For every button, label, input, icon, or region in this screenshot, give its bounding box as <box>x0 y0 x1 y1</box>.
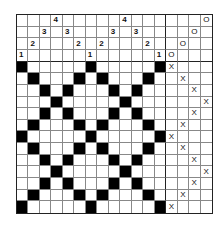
drawdown-cell <box>63 178 74 190</box>
tieup-cell: O <box>166 50 177 62</box>
treadling-cell <box>201 131 212 143</box>
drawdown-cell <box>97 85 108 97</box>
drawdown-cell <box>28 62 39 74</box>
threading-cell: 2 <box>143 38 154 50</box>
threading-cell <box>17 15 28 27</box>
drawdown-cell <box>63 62 74 74</box>
drawdown-cell <box>17 178 28 190</box>
threading-cell <box>63 50 74 62</box>
drawdown-cell <box>109 166 120 178</box>
tieup-cell <box>201 50 212 62</box>
threading-cell <box>51 38 62 50</box>
drawdown-cell <box>40 178 51 190</box>
drawdown-cell <box>28 108 39 120</box>
threading-cell <box>17 38 28 50</box>
drawdown-cell <box>74 108 85 120</box>
tieup-cell: O <box>189 27 200 39</box>
drawdown-cell <box>109 201 120 213</box>
drawdown-cell <box>28 85 39 97</box>
drawdown-cell <box>40 108 51 120</box>
drawdown-cell <box>109 143 120 155</box>
threading-cell: 2 <box>28 38 39 50</box>
drawdown-cell <box>17 108 28 120</box>
drawdown-cell <box>17 62 28 74</box>
drawdown-cell <box>120 166 131 178</box>
drawdown-cell <box>120 97 131 109</box>
treadling-cell <box>189 62 200 74</box>
drawdown-cell <box>51 62 62 74</box>
treadling-cell <box>189 166 200 178</box>
drawdown-cell <box>143 108 154 120</box>
treadling-cell <box>178 201 189 213</box>
threading-cell: 4 <box>120 15 131 27</box>
drawdown-cell <box>74 120 85 132</box>
threading-cell <box>74 27 85 39</box>
threading-cell <box>143 15 154 27</box>
drawdown-cell <box>143 201 154 213</box>
drawdown-cell <box>40 97 51 109</box>
treadling-cell <box>178 97 189 109</box>
treadling-cell <box>201 201 212 213</box>
drawdown-cell <box>17 85 28 97</box>
threading-cell <box>86 38 97 50</box>
treadling-cell <box>166 120 177 132</box>
drawdown-cell <box>51 143 62 155</box>
threading-cell <box>74 15 85 27</box>
drawdown-cell <box>74 85 85 97</box>
drawdown-cell <box>132 155 143 167</box>
drawdown-cell <box>120 155 131 167</box>
drawdown-cell <box>74 155 85 167</box>
threading-cell <box>132 38 143 50</box>
drawdown-cell <box>97 108 108 120</box>
tieup-cell <box>189 38 200 50</box>
threading-cell <box>51 27 62 39</box>
drawdown-cell <box>120 143 131 155</box>
drawdown-cell <box>155 178 166 190</box>
drawdown-cell <box>143 190 154 202</box>
drawdown-cell <box>63 120 74 132</box>
threading-cell: 3 <box>132 27 143 39</box>
drawdown-cell <box>51 120 62 132</box>
treadling-cell <box>178 108 189 120</box>
threading-cell <box>74 50 85 62</box>
drawdown-cell <box>51 131 62 143</box>
treadling-cell: X <box>189 85 200 97</box>
drawdown-cell <box>63 85 74 97</box>
drawdown-cell <box>17 120 28 132</box>
drawdown-cell <box>155 73 166 85</box>
threading-cell <box>97 50 108 62</box>
treadling-cell: X <box>178 120 189 132</box>
drawdown-cell <box>132 62 143 74</box>
drawdown-cell <box>63 97 74 109</box>
treadling-cell <box>201 73 212 85</box>
drawdown-cell <box>86 85 97 97</box>
threading-cell: 3 <box>40 27 51 39</box>
drawdown-cell <box>143 131 154 143</box>
drawdown-cell <box>51 190 62 202</box>
treadling-cell <box>166 73 177 85</box>
treadling-cell: X <box>178 143 189 155</box>
treadling-cell <box>201 62 212 74</box>
drawdown-cell <box>97 166 108 178</box>
threading-cell <box>109 38 120 50</box>
threading-cell <box>17 27 28 39</box>
drawdown-cell <box>143 178 154 190</box>
threading-cell <box>51 50 62 62</box>
drawdown-cell <box>51 108 62 120</box>
treadling-cell <box>201 120 212 132</box>
tieup-cell <box>178 15 189 27</box>
threading-cell <box>28 15 39 27</box>
drawdown-cell <box>97 155 108 167</box>
drawdown-cell <box>17 97 28 109</box>
drawdown-cell <box>51 178 62 190</box>
drawdown-cell <box>63 143 74 155</box>
drawdown-cell <box>155 85 166 97</box>
drawdown-cell <box>109 73 120 85</box>
drawdown-cell <box>155 190 166 202</box>
treadling-cell <box>189 97 200 109</box>
drawdown-cell <box>155 166 166 178</box>
drawdown-cell <box>28 155 39 167</box>
drawdown-cell <box>132 166 143 178</box>
treadling-cell <box>166 190 177 202</box>
drawdown-cell <box>132 143 143 155</box>
